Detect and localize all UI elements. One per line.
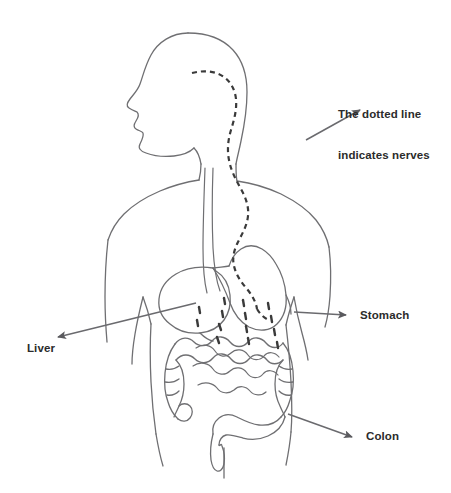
colon-sigmoid-upper (213, 415, 281, 434)
right-shoulder-outline (237, 181, 329, 247)
colon-transverse-lower (176, 354, 283, 364)
arrow-to-liver-label (58, 303, 196, 337)
hip-right-line (286, 432, 291, 465)
right-arm-inner (294, 297, 308, 360)
neck-back-line (236, 164, 237, 181)
torso-right-side (286, 325, 292, 432)
nerve-main-trunk (192, 71, 257, 309)
stomach-group (213, 246, 291, 330)
rectum-outline (211, 434, 225, 471)
nerve-dash (274, 329, 275, 335)
nerve-dash (277, 342, 278, 348)
nerve-dash (224, 298, 225, 304)
left-shoulder-outline (108, 180, 199, 240)
colon-transverse-upper (175, 337, 283, 348)
small-intestine-coils (196, 345, 279, 359)
label-nerves-line1: The dotted line (338, 108, 430, 122)
right-armpit (286, 297, 294, 325)
torso-left-side (150, 324, 156, 434)
left-arm-outer (105, 240, 108, 342)
small-intestine-coils-3 (198, 383, 266, 395)
nerve-dash (248, 338, 249, 344)
arrow-to-colon-label (288, 414, 352, 437)
colon-group (165, 337, 294, 471)
small-intestine-coils-2 (193, 363, 278, 377)
left-armpit (143, 297, 151, 324)
small-intestine-group (193, 345, 279, 395)
nerve-dash (268, 303, 269, 309)
cranium-outline (188, 33, 247, 164)
nerve-dash (197, 320, 198, 326)
nerve-branch-right (257, 309, 269, 320)
nerve-dash (219, 324, 221, 330)
nerve-dash (246, 326, 247, 332)
leader-arrows-group (58, 110, 360, 437)
jaw-neck-front (194, 148, 201, 164)
nerve-dash (243, 300, 244, 306)
nerve-dash (217, 337, 219, 343)
neck-front-line (199, 164, 201, 180)
nerve-dash (199, 307, 200, 313)
anatomy-illustration (0, 0, 451, 493)
stomach-fundus-curve (213, 266, 229, 268)
hip-left-line (156, 434, 163, 466)
label-nerves-line2: indicates nerves (338, 149, 430, 163)
label-liver: Liver (27, 342, 55, 356)
body-outline-group (105, 33, 331, 478)
label-nerves: The dotted line indicates nerves (338, 81, 430, 189)
stomach-pylorus (286, 295, 291, 314)
label-stomach: Stomach (360, 309, 409, 323)
diagram-canvas: The dotted line indicates nerves Stomach… (0, 0, 451, 493)
arrow-to-stomach-label (294, 312, 346, 315)
liver-lobe-notch (200, 333, 213, 341)
left-arm-inner (132, 297, 143, 364)
label-colon: Colon (366, 430, 399, 444)
nerve-dash (271, 316, 272, 322)
nerve-terminal-dashes-group (197, 298, 278, 348)
nerve-dash (245, 313, 246, 319)
colon-cecum (178, 404, 192, 421)
head-profile-outline (127, 33, 194, 156)
right-arm-outer (325, 247, 331, 327)
colon-ascending-haustra (165, 366, 179, 395)
esophagus-left-wall (203, 168, 207, 293)
nerve-dash (222, 311, 223, 317)
colon-sigmoid-lower (219, 417, 285, 445)
